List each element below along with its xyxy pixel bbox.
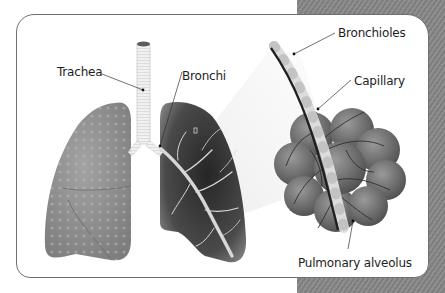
- trachea-label: Trachea: [57, 66, 102, 78]
- trachea: [128, 42, 163, 157]
- capillary-leader-line: [318, 80, 351, 109]
- diagram-stage: Trachea Bronchi Bronchioles Capillary Pu…: [0, 0, 445, 293]
- capillary-label: Capillary: [354, 75, 405, 87]
- bronchioles-leader-line: [294, 33, 335, 54]
- lungs-illustration: [0, 0, 445, 293]
- alveolus-label: Pulmonary alveolus: [298, 257, 412, 269]
- bronchioles-label: Bronchioles: [338, 27, 406, 39]
- left-lung: [45, 102, 131, 260]
- bronchi-label: Bronchi: [182, 70, 226, 82]
